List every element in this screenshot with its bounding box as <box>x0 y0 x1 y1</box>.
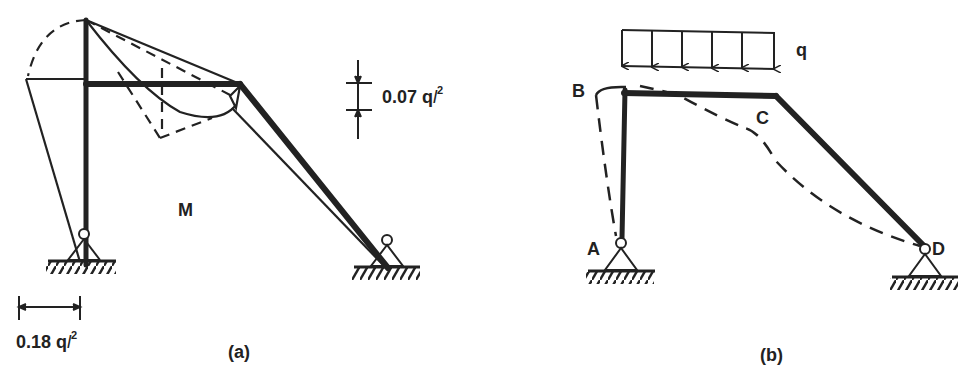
moment-label: M <box>178 200 193 220</box>
node-label-a: A <box>587 239 600 259</box>
load-label-q: q <box>796 40 807 60</box>
strut-cd-b <box>776 96 924 246</box>
distributed-load <box>622 30 775 69</box>
dimension-top-a <box>346 60 372 139</box>
figure-a: 0.07 ql2 0.18 ql2 M (a) <box>16 20 443 362</box>
frame-a <box>86 20 388 268</box>
dim-bottom-value: 0.18 ql2 <box>16 329 77 352</box>
frame-b <box>622 90 924 246</box>
figure-b: q B C A D (b) <box>572 30 958 365</box>
structural-diagram: 0.07 ql2 0.18 ql2 M (a) q <box>0 0 972 387</box>
caption-b: (b) <box>760 345 783 365</box>
column-ab-b <box>622 90 625 238</box>
node-label-b: B <box>572 81 585 101</box>
support-b-d <box>890 244 958 290</box>
dimension-bottom-a <box>19 296 80 320</box>
strut-cd <box>240 84 388 268</box>
beam-bc-b <box>624 93 776 96</box>
support-a-left <box>46 229 116 274</box>
caption-a: (a) <box>228 342 250 362</box>
node-label-d: D <box>932 239 945 259</box>
dim-top-value: 0.07 ql2 <box>382 84 443 107</box>
node-label-c: C <box>756 108 769 128</box>
